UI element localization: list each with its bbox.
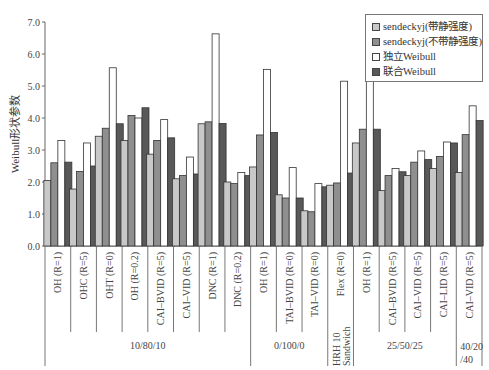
bar: [224, 182, 231, 246]
bar: [264, 69, 271, 246]
legend-swatch-icon: [372, 53, 380, 61]
x-tick-label: OH (R=1): [52, 252, 64, 293]
bar: [334, 183, 341, 246]
bar: [352, 143, 359, 246]
bar: [109, 68, 116, 246]
bar: [198, 124, 205, 246]
bar: [385, 176, 392, 246]
x-tick-label: CAI–LID (R=5): [438, 252, 450, 317]
x-tick-label: DNC (R=1): [207, 252, 219, 300]
bar: [84, 143, 91, 246]
bar: [411, 162, 418, 246]
bar: [102, 128, 109, 246]
y-axis-label: Weibull形状参数: [8, 95, 21, 174]
bar: [289, 168, 296, 246]
bar: [469, 106, 476, 246]
y-tick-label: 3.0: [28, 145, 41, 156]
group-label: 25/50/25: [387, 340, 423, 351]
legend-swatch-icon: [372, 23, 380, 31]
y-tick-label: 7.0: [28, 17, 41, 28]
bar: [308, 212, 315, 246]
x-tick-label: DNC (R=0.2): [232, 252, 244, 307]
y-tick-label: 0.0: [28, 241, 41, 252]
bar: [186, 157, 193, 246]
bar: [392, 169, 399, 246]
bar: [212, 34, 219, 246]
legend-item: sendeckyj(不带静强度): [372, 34, 482, 49]
bar: [95, 136, 102, 246]
bar: [443, 142, 450, 246]
bar: [51, 163, 58, 246]
bar: [257, 135, 264, 246]
x-tick-label: CAI–BVID (R=5): [155, 252, 167, 325]
bar: [70, 189, 77, 246]
bar: [128, 115, 135, 246]
y-tick-label: 2.0: [28, 177, 41, 188]
bar: [231, 184, 238, 246]
bar: [205, 122, 212, 246]
bar: [250, 167, 257, 246]
y-tick-label: 1.0: [28, 209, 41, 220]
bar: [476, 121, 483, 246]
group-label: 10/80/10: [130, 340, 166, 351]
bar: [404, 176, 411, 246]
bar: [135, 118, 142, 246]
legend-item: sendeckyj(带静强度): [372, 19, 482, 34]
y-tick-label: 6.0: [28, 49, 41, 60]
legend-swatch-icon: [372, 68, 380, 76]
bar: [327, 185, 334, 246]
x-tick-label: OHC (R=5): [78, 252, 90, 300]
x-tick-label: CAI–BVID (R=5): [387, 252, 399, 325]
bar: [282, 198, 289, 246]
legend-swatch-icon: [372, 38, 380, 46]
bar: [275, 195, 282, 246]
bar: [341, 81, 348, 246]
y-tick-label: 5.0: [28, 81, 41, 92]
group-label: 0/100/0: [274, 340, 305, 351]
bar: [429, 169, 436, 246]
group-label: 40/20: [460, 341, 483, 352]
group-label: Sandwich: [341, 327, 352, 366]
x-tick-label: Flex (R=0): [335, 252, 347, 296]
bar: [44, 180, 51, 246]
bar: [154, 140, 161, 246]
bar: [147, 154, 154, 246]
bar: [462, 135, 469, 246]
bar: [366, 63, 373, 246]
bar: [378, 191, 385, 246]
bar: [418, 151, 425, 246]
x-tick-label: OH (R=1): [361, 252, 373, 293]
bar: [315, 184, 322, 246]
bar: [58, 140, 65, 246]
group-label: /40: [460, 354, 473, 365]
bar: [77, 171, 84, 246]
bar: [121, 140, 128, 246]
x-tick-label: CAI–VID (R=5): [181, 252, 193, 318]
x-tick-label: CAI–VID (R=5): [464, 252, 476, 318]
bar: [238, 172, 245, 246]
bar: [179, 176, 186, 246]
x-tick-label: TAI–BVID (R=0): [284, 252, 296, 324]
bar: [161, 120, 168, 246]
bar: [172, 179, 179, 246]
bar: [455, 172, 462, 246]
chart-legend: sendeckyj(带静强度) sendeckyj(不带静强度) 独立Weibu…: [365, 14, 483, 82]
x-tick-label: CAI–VID (R=5): [412, 252, 424, 318]
x-tick-label: OH (R=0.2): [129, 252, 141, 300]
legend-item: 独立Weibull: [372, 49, 482, 64]
legend-item: 联合Weibull: [372, 64, 482, 79]
x-tick-label: OHT (R=0): [104, 252, 116, 299]
bar: [301, 211, 308, 246]
bar: [359, 129, 366, 246]
x-tick-label: TAI–VID (R=0): [309, 252, 321, 317]
bar: [436, 156, 443, 246]
y-tick-label: 4.0: [28, 113, 41, 124]
x-tick-label: OH (R=1): [258, 252, 270, 293]
